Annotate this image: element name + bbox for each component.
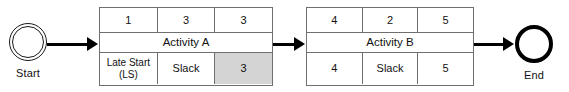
activity-a-top-row: 1 3 3	[100, 8, 272, 33]
activity-a-slack-cell: Slack	[157, 53, 215, 84]
activity-b-box: 4 2 5 Activity B 4 Slack 5	[306, 7, 474, 86]
activity-a-name-row: Activity A	[100, 33, 272, 53]
activity-a-early-start-cell: 1	[100, 8, 157, 32]
activity-b-early-finish-cell: 5	[417, 8, 473, 32]
diagram-canvas: Start 1 3 3 Activity A Late Start (LS) S…	[0, 0, 569, 92]
start-node-inner-circle	[12, 26, 44, 58]
activity-b-slack-cell: Slack	[362, 53, 418, 84]
activity-b-late-start-cell: 4	[307, 53, 362, 84]
activity-a-name: Activity A	[100, 33, 272, 52]
activity-a-duration-cell: 3	[157, 8, 215, 32]
activity-b-bottom-row: 4 Slack 5	[307, 53, 473, 84]
activity-a-late-finish-cell: 3	[214, 53, 272, 84]
arrow-shaft	[47, 43, 88, 46]
connector-start-to-activity-a	[47, 37, 98, 51]
activity-a-late-start-cell: Late Start (LS)	[100, 53, 157, 84]
activity-b-late-finish-cell: 5	[417, 53, 473, 84]
connector-activity-b-to-end	[474, 37, 514, 51]
activity-b-name: Activity B	[307, 33, 473, 52]
activity-b-duration-cell: 2	[362, 8, 418, 32]
activity-a-bottom-row: Late Start (LS) Slack 3	[100, 53, 272, 84]
activity-b-name-row: Activity B	[307, 33, 473, 53]
end-node-label: End	[506, 69, 562, 81]
arrow-shaft	[273, 43, 295, 46]
activity-b-top-row: 4 2 5	[307, 8, 473, 33]
end-node-circle	[515, 25, 553, 63]
start-node-label: Start	[0, 67, 56, 79]
activity-a-box: 1 3 3 Activity A Late Start (LS) Slack 3	[99, 7, 273, 86]
activity-b-early-start-cell: 4	[307, 8, 362, 32]
connector-activity-a-to-activity-b	[273, 37, 305, 51]
arrow-head-icon	[294, 37, 305, 51]
arrow-head-icon	[87, 37, 98, 51]
arrow-head-icon	[503, 37, 514, 51]
arrow-shaft	[474, 43, 504, 46]
activity-a-early-finish-cell: 3	[214, 8, 272, 32]
